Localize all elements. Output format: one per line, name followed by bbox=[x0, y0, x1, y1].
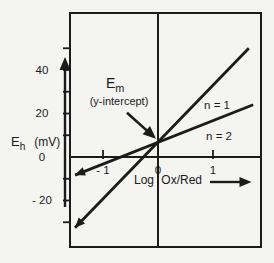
y-tick-label: 20 bbox=[27, 107, 57, 120]
y-tick-label: 40 bbox=[27, 64, 57, 77]
x-tick-label: 0 bbox=[145, 164, 171, 177]
y-intercept-symbol-subscript: m bbox=[115, 82, 124, 94]
series-label-n2: n = 2 bbox=[200, 130, 238, 142]
y-intercept-annotation-label: Em bbox=[106, 75, 124, 91]
x-tick-label: 1 bbox=[200, 164, 226, 177]
y-intercept-annotation-caption: (y-intercept) bbox=[85, 95, 153, 107]
x-axis-arrow-head bbox=[240, 177, 252, 187]
y-axis-unit: (mV) bbox=[34, 135, 60, 149]
y-tick-label: 0 bbox=[27, 151, 57, 164]
nernst-plot-figure: Eh(mV) Em (y-intercept) n = 1 n = 2 Log … bbox=[0, 0, 274, 263]
y-axis-title: Eh(mV) bbox=[11, 134, 60, 149]
y-tick-label: - 20 bbox=[27, 194, 57, 207]
y-axis-symbol: E bbox=[11, 134, 20, 149]
x-tick-label: - 1 bbox=[90, 164, 116, 177]
series-label-n1: n = 1 bbox=[198, 99, 236, 111]
y-axis-symbol-subscript: h bbox=[20, 141, 26, 152]
y-intercept-symbol: E bbox=[106, 75, 115, 91]
y-axis-arrow-head bbox=[60, 57, 71, 70]
